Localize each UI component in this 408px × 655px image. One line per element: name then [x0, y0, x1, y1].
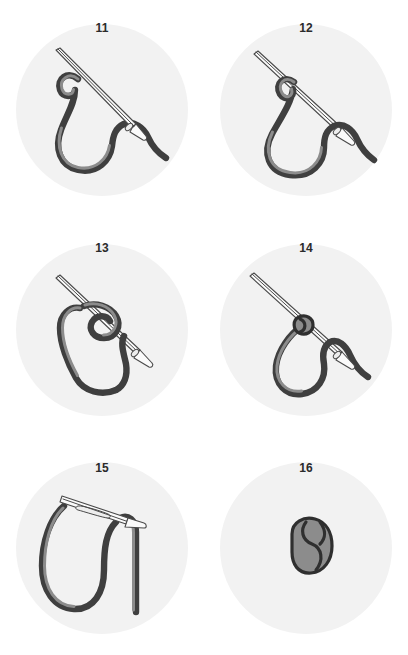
panel-step-12: 12 [204, 0, 408, 220]
panel-step-15: 15 [0, 440, 204, 655]
panel-step-13: 13 [0, 220, 204, 440]
knot-14 [294, 316, 313, 334]
panel-step-14: 14 [204, 220, 408, 440]
panel-number-12: 12 [299, 22, 313, 34]
panel-illustration-11 [16, 24, 188, 196]
panel-illustration-13 [16, 244, 188, 416]
needle-12-under [254, 51, 342, 132]
panel-number-13: 13 [95, 242, 109, 254]
panel-number-11: 11 [95, 22, 108, 34]
panel-step-16: 16 [204, 440, 408, 655]
needle-13-over [130, 348, 153, 367]
panel-illustration-14 [220, 244, 392, 416]
panel-number-14: 14 [299, 242, 313, 254]
finished-knot [292, 518, 332, 573]
panel-illustration-12 [220, 24, 392, 196]
knot-steps-grid: 11 12 [0, 0, 408, 655]
panel-step-11: 11 [0, 0, 204, 220]
panel-number-16: 16 [299, 462, 313, 474]
needle-15 [60, 496, 146, 528]
panel-number-15: 15 [95, 462, 109, 474]
panel-illustration-15 [16, 462, 188, 634]
panel-illustration-16 [220, 462, 392, 634]
